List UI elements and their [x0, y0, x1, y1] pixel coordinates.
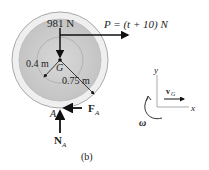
- omega-label: ω: [139, 117, 146, 128]
- friction-label: F: [88, 102, 95, 114]
- omega-arrowhead-icon: [146, 96, 151, 101]
- normal-sub: A: [61, 141, 67, 149]
- figure-caption: (b): [81, 151, 93, 163]
- contact-point-label: A: [49, 108, 57, 119]
- y-axis-label: y: [153, 65, 158, 75]
- outer-radius-label: 0.75 m: [62, 75, 90, 86]
- friction-sub: A: [94, 109, 100, 117]
- normal-label: N: [54, 134, 62, 146]
- omega-arc: [145, 98, 162, 119]
- x-axis-label: x: [190, 103, 195, 113]
- force-p-label: P = (t + 10) N: [103, 18, 168, 31]
- weight-label: 981 N: [47, 17, 74, 29]
- velocity-label: v: [166, 87, 170, 96]
- inner-radius-label: 0.4 m: [26, 58, 49, 69]
- free-body-diagram: 981 N P = (t + 10) N G 0.4 m 0.75 m A F …: [0, 0, 209, 170]
- center-label: G: [56, 62, 63, 73]
- coordinate-axes: y x: [153, 65, 195, 113]
- velocity-sub: G: [171, 91, 176, 97]
